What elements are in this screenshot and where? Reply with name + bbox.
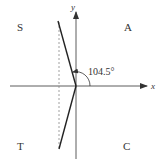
terminal-arm-q2 xyxy=(58,21,76,86)
angle-label: 104.5° xyxy=(88,66,115,77)
quadrant-label-c: C xyxy=(123,140,130,152)
quadrant-label-a: A xyxy=(124,21,132,33)
y-axis-label: y xyxy=(70,2,75,12)
quadrant-label-s: S xyxy=(17,21,23,33)
cast-diagram: S A T C 104.5° x y xyxy=(0,0,163,159)
x-axis-label: x xyxy=(150,81,155,91)
quadrant-label-t: T xyxy=(17,140,24,152)
terminal-arm-q3 xyxy=(59,86,76,149)
